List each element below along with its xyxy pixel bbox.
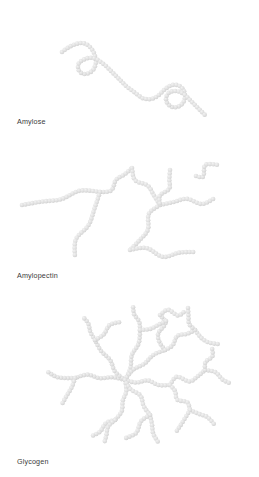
glucose-monomer: [124, 436, 129, 441]
glucose-monomer: [211, 421, 216, 426]
glucose-monomer: [157, 201, 162, 206]
glucose-monomer: [211, 197, 216, 202]
glucose-monomer: [186, 306, 191, 311]
glucose-monomer: [215, 163, 220, 168]
polysaccharide-figure: Amylose Amylopectin Glycogen: [0, 0, 259, 477]
glucose-monomer: [131, 305, 136, 310]
panel-glycogen: [0, 292, 259, 477]
glucose-monomer: [226, 380, 231, 385]
glucose-monomer: [181, 310, 186, 315]
glucose-monomer: [46, 370, 51, 375]
amylose-diagram: [0, 0, 259, 160]
glucose-monomer: [210, 347, 215, 352]
glucose-monomer: [175, 428, 180, 433]
glucose-monomer: [82, 316, 87, 321]
glucose-monomer: [117, 320, 122, 325]
label-amylopectin: Amylopectin: [17, 272, 58, 279]
glucose-monomer: [60, 401, 65, 406]
panel-amylose: [0, 0, 259, 160]
glycogen-diagram: [0, 292, 259, 477]
glucose-monomer: [191, 250, 196, 255]
glucose-monomer: [103, 439, 108, 444]
label-glycogen: Glycogen: [17, 458, 49, 465]
label-amylose: Amylose: [17, 118, 46, 125]
glucose-monomer: [202, 112, 207, 117]
glucose-monomer: [215, 342, 220, 347]
glucose-monomer: [155, 439, 160, 444]
glucose-monomer: [73, 253, 78, 258]
glucose-monomer: [91, 433, 96, 438]
glucose-monomer: [164, 319, 169, 324]
